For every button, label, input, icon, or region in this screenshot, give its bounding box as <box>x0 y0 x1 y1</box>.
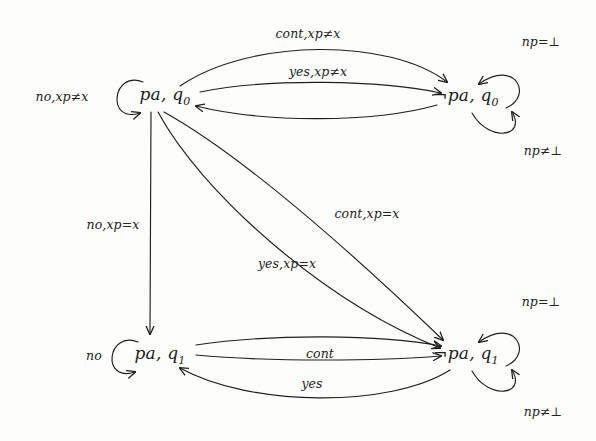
edge-label-no-xp-eq-x: no,xp=x <box>87 217 140 232</box>
state-label-not-pa-q0: ¬pa, q0 <box>433 85 498 108</box>
edge-label-cont-xp-neq-x: cont,xp≠x <box>275 26 340 41</box>
edge-cont-xp-eq-x <box>164 112 443 340</box>
self-loop-label-not-pa-q0-top: np=⊥ <box>522 34 561 49</box>
self-loop-not-pa-q0-bottom <box>472 112 515 133</box>
edge-label-yes-xp-neq-x: yes,xp≠x <box>289 64 347 79</box>
self-loop-label-not-pa-q0-bottom: np≠⊥ <box>524 143 563 158</box>
edge-label-cont-q1: cont <box>306 346 334 361</box>
edge-label-cont-xp-eq-x: cont,xp=x <box>334 206 399 221</box>
self-loop-label-pa-q1: no <box>86 348 102 363</box>
edge-label-yes-q1: yes <box>301 376 322 391</box>
edge-yes-xp-eq-x <box>158 112 440 348</box>
state-label-pa-q1: pa, q1 <box>135 343 186 366</box>
edge-yes-xp-neq-x <box>200 82 441 93</box>
edge-label-yes-xp-eq-x: yes,xp=x <box>258 256 316 271</box>
state-label-pa-q0: pa, q0 <box>140 84 191 107</box>
edge-no-xp-eq-x <box>150 112 151 334</box>
self-loop-not-pa-q1-bottom <box>472 370 515 391</box>
self-loop-label-pa-q0: no,xp≠x <box>36 89 89 104</box>
edge-return-q0 <box>196 105 437 119</box>
state-label-not-pa-q1: ¬pa, q1 <box>433 343 498 366</box>
self-loop-label-not-pa-q1-bottom: np≠⊥ <box>524 404 563 419</box>
state-diagram: pa, q0 ¬pa, q0 pa, q1 ¬pa, q1 no,xp≠x np… <box>0 0 596 441</box>
self-loop-label-not-pa-q1-top: np=⊥ <box>522 294 561 309</box>
